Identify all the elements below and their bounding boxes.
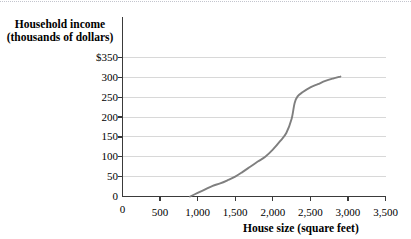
x-tick-label-2500: 2,500 (298, 207, 323, 218)
x-tick-label-3500: 3,500 (373, 207, 398, 218)
chart-plot-region: 050100150200250300$350 05001,0001,5002,0… (0, 0, 411, 239)
y-axis-title-line2: (thousands of dollars) (0, 31, 120, 44)
chart-screenshot: 050100150200250300$350 05001,0001,5002,0… (0, 0, 411, 239)
x-axis-title: House size (square feet) (243, 222, 359, 235)
y-axis-title: Household income (thousands of dollars) (0, 18, 120, 44)
x-tick-label-1000: 1,000 (185, 207, 210, 218)
x-tick-label-0: 0 (120, 204, 126, 215)
y-axis-title-line1: Household income (15, 18, 105, 30)
x-tick-label-1500: 1,500 (223, 207, 248, 218)
x-tick-label-3000: 3,000 (336, 207, 361, 218)
x-tick-label-2000: 2,000 (260, 207, 285, 218)
x-tick-label-500: 500 (152, 207, 169, 218)
